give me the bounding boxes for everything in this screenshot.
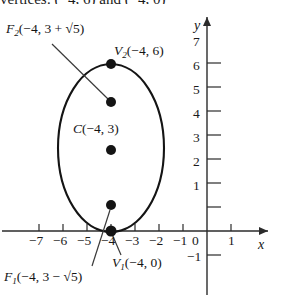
x-axis-arrowhead [259,227,268,235]
y-tick-label-6: 6 [193,59,200,73]
x-tick-label-neg7: −7 [29,234,43,248]
x-tick-label-neg6: −6 [53,234,67,248]
label-center-name: C [73,121,82,136]
label-vertex-lower-name: V [112,255,120,270]
x-tick-label-1: 1 [228,234,235,248]
figure-canvas: vertices: (−4, 6) and (−4, 0) [0,0,284,307]
label-focus-upper-coords: (−4, 3 + √5) [19,21,84,36]
y-tick-label-3: 3 [193,131,200,145]
y-axis-arrowhead [203,17,211,26]
x-tick-label-neg4: −4 [101,234,115,248]
x-axis-label: x [258,238,264,252]
y-tick-label-2: 2 [193,155,200,169]
y-tick-label-5: 5 [193,83,200,97]
label-vertex-upper-coords: (−4, 6) [127,43,164,58]
label-vertex-lower: V1(−4, 0) [112,256,162,272]
y-axis-ticks [207,63,221,255]
leader-line-focus-upper [52,44,108,99]
label-center-coords: (−4, 3) [82,121,119,136]
label-focus-lower: F1(−4, 3 − √5) [4,270,82,286]
point-center [106,145,116,155]
point-focus-lower [106,200,116,210]
y-tick-label-1: 1 [193,179,200,193]
origin-label: 0 [192,234,199,248]
label-focus-lower-name: F [4,269,12,284]
label-center: C(−4, 3) [73,122,119,136]
label-focus-upper-name: F [6,21,14,36]
x-tick-label-neg5: −5 [77,234,91,248]
y-tick-label-4: 4 [193,107,200,121]
x-tick-label-neg2: −2 [149,234,163,248]
point-focus-upper [106,97,116,107]
label-vertex-lower-coords: (−4, 0) [125,255,162,270]
x-tick-label-neg1: −1 [173,234,187,248]
point-vertex-upper [106,59,116,69]
x-tick-label-neg3: −3 [125,234,139,248]
x-axis-ticks [39,224,231,231]
label-focus-upper: F2(−4, 3 + √5) [6,22,84,38]
y-axis-label: y [194,19,200,33]
label-focus-lower-coords: (−4, 3 − √5) [17,269,82,284]
label-vertex-upper-name: V [114,43,122,58]
label-vertex-upper: V2(−4, 6) [114,44,164,60]
y-tick-label-neg1: −1 [187,250,201,264]
y-tick-label-7: 7 [193,35,200,49]
